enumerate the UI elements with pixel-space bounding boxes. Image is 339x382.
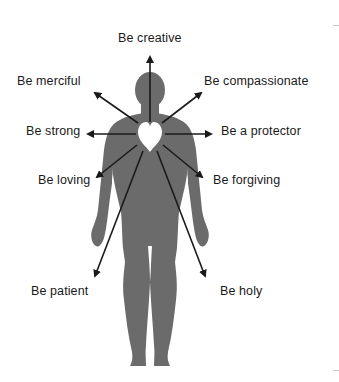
label-be-creative: Be creative bbox=[118, 31, 182, 45]
edge-artifact bbox=[333, 25, 339, 26]
label-be-holy: Be holy bbox=[220, 284, 262, 298]
label-be-loving: Be loving bbox=[38, 173, 90, 187]
label-be-patient: Be patient bbox=[31, 284, 88, 298]
arrow-compassionate bbox=[162, 93, 201, 123]
edge-artifact bbox=[333, 370, 339, 371]
label-be-merciful: Be merciful bbox=[17, 74, 81, 88]
label-be-strong: Be strong bbox=[26, 124, 80, 138]
label-be-forgiving: Be forgiving bbox=[213, 173, 280, 187]
label-be-compassionate: Be compassionate bbox=[204, 74, 308, 88]
arrow-merciful bbox=[95, 93, 138, 123]
label-be-a-protector: Be a protector bbox=[221, 124, 301, 138]
